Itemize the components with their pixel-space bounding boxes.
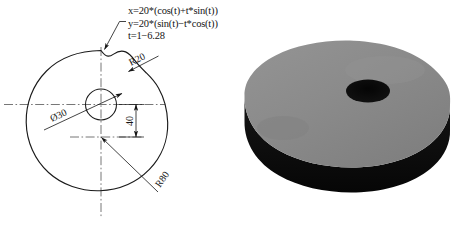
parametric-equations-block: x=20*(cos(t)+t*sin(t)) y=20*(sin(t)−t*co…: [128, 5, 218, 41]
centerlines-group: [4, 47, 165, 218]
top-face-shading: [257, 116, 309, 140]
top-face-highlight: [345, 56, 425, 84]
cam-outer-profile: [26, 51, 168, 191]
equation-y: y=20*(sin(t)−t*cos(t)): [128, 18, 218, 30]
cad-drawing-pane: x=20*(cos(t)+t*sin(t)) y=20*(sin(t)−t*co…: [0, 0, 235, 235]
equation-t-range: t=1−6.28: [128, 30, 165, 41]
equation-leader-group: [105, 22, 127, 50]
cam-profile-group: [26, 51, 168, 191]
equation-x: x=20*(cos(t)+t*sin(t)): [128, 5, 218, 17]
model-render-svg: [235, 0, 462, 235]
figure-root: x=20*(cos(t)+t*sin(t)) y=20*(sin(t)−t*co…: [0, 0, 462, 235]
model-center-hole-group: [346, 80, 390, 103]
cad-drawing-svg: x=20*(cos(t)+t*sin(t)) y=20*(sin(t)−t*co…: [0, 0, 235, 235]
hole-diameter-annotation-group: Ø30: [44, 94, 122, 131]
r80-annotation-group: R80: [102, 138, 172, 193]
r20-annotation-group: R20: [127, 50, 159, 71]
offset-dimension-group: 40: [119, 105, 144, 138]
equation-leader-arrow: [105, 22, 120, 50]
offset-dimension-label: 40: [124, 116, 135, 126]
r80-label: R80: [153, 169, 172, 189]
hole-diameter-label: Ø30: [48, 107, 68, 124]
r20-label: R20: [127, 50, 147, 67]
model-center-hole: [346, 80, 390, 103]
model-render-pane: [235, 0, 462, 235]
